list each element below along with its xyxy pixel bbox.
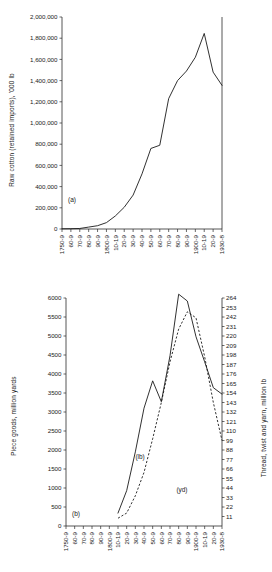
x-tick-label: 60-9 <box>158 531 165 544</box>
chart-a-y-axis-title: Raw cotton (retained imports), '000 lb <box>8 73 16 187</box>
x-tick-label: 1900-9 <box>192 234 199 254</box>
x-tick-label: 60-9 <box>71 531 78 544</box>
y-right-tick-label: 242 <box>226 313 237 320</box>
y-tick-label: 1,800,000 <box>30 34 58 41</box>
y-right-tick-label: 176 <box>226 370 237 377</box>
y-right-tick-label: 253 <box>226 304 237 311</box>
y-right-tick-label: 55 <box>226 475 233 482</box>
chart-a-y-axis-title-group: Raw cotton (retained imports), '000 lb <box>8 73 16 187</box>
x-tick-label: 20-9 <box>120 234 127 247</box>
chart-b-svg: Piece goods, million yards Thread, twist… <box>0 288 272 572</box>
chart-b-curve-label-lb: (lb) <box>135 453 144 461</box>
y-tick-label: 0 <box>54 225 58 232</box>
y-tick-label: 1,200,000 <box>30 98 58 105</box>
x-tick-label: 60-9 <box>156 234 163 247</box>
y-tick-label: 4000 <box>48 370 62 377</box>
x-tick-label: 10-19 <box>201 531 208 547</box>
y-right-tick-label: 198 <box>226 351 237 358</box>
x-tick-label: 20-9 <box>210 531 217 544</box>
y-tick-label: 600,000 <box>35 162 58 169</box>
y-right-tick-label: 77 <box>226 456 233 463</box>
series-line-solid <box>62 33 222 228</box>
series-line-dashed <box>118 312 222 518</box>
y-tick-label: 2000 <box>48 446 62 453</box>
y-tick-label: 5500 <box>48 313 62 320</box>
y-right-tick-label: 88 <box>226 446 233 453</box>
chart-a-svg: Raw cotton (retained imports), '000 lb 0… <box>0 0 272 288</box>
chart-b-y-tick-labels: 0500100015002000250030003500400045005000… <box>48 294 62 529</box>
y-right-tick-label: 154 <box>226 389 237 396</box>
y-tick-label: 4500 <box>48 351 62 358</box>
y-right-tick-label: 231 <box>226 323 237 330</box>
x-tick-label: 80-9 <box>175 531 182 544</box>
x-tick-label: 40-9 <box>138 234 145 247</box>
chart-a-x-tick-labels: 1750-960-970-980-990-91800-910-1920-930-… <box>58 234 225 254</box>
x-tick-label: 30-9 <box>129 234 136 247</box>
y-tick-label: 6000 <box>48 294 62 301</box>
x-tick-label: 50-9 <box>147 234 154 247</box>
x-tick-label: 70-9 <box>80 531 87 544</box>
y-right-tick-label: 264 <box>226 294 237 301</box>
y-right-tick-label: 187 <box>226 361 237 368</box>
y-right-tick-label: 66 <box>226 465 233 472</box>
chart-b-axis-lines <box>64 298 225 529</box>
x-tick-label: 90-9 <box>183 234 190 247</box>
chart-b-x-tick-labels: 1750-960-970-980-990-91800-910-1920-930-… <box>62 531 225 551</box>
y-right-tick-label: 209 <box>226 342 237 349</box>
chart-a-axis-lines <box>60 17 223 232</box>
x-tick-label: 10-19 <box>200 234 207 250</box>
x-tick-label: 60-9 <box>67 234 74 247</box>
chart-a-y-tick-labels: 0200,000400,000600,000800,0001,000,0001,… <box>30 13 58 232</box>
x-tick-label: 1800-9 <box>103 234 110 254</box>
y-tick-label: 3500 <box>48 389 62 396</box>
x-tick-label: 1930-8 <box>218 234 225 254</box>
x-tick-label: 1900-9 <box>192 531 199 551</box>
y-tick-label: 2,000,000 <box>30 13 58 20</box>
y-tick-label: 2500 <box>48 427 62 434</box>
y-tick-label: 400,000 <box>35 183 58 190</box>
x-tick-label: 70-9 <box>166 531 173 544</box>
y-tick-label: 1,000,000 <box>30 119 58 126</box>
chart-b-series-group <box>118 294 222 518</box>
chart-panel-b: Piece goods, million yards Thread, twist… <box>0 288 272 572</box>
x-tick-label: 80-9 <box>85 234 92 247</box>
x-tick-label: 10-19 <box>114 531 121 547</box>
chart-b-y-axis-title: Piece goods, million yards <box>10 376 18 455</box>
chart-a-panel-tag: (a) <box>68 196 76 204</box>
y-tick-label: 500 <box>51 503 62 510</box>
chart-b-y-axis-right-title-group: Thread, twist and yarn, million lb <box>260 379 268 478</box>
y-tick-label: 1,600,000 <box>30 56 58 63</box>
x-tick-label: 30-9 <box>132 531 139 544</box>
y-right-tick-label: 143 <box>226 399 237 406</box>
y-tick-label: 5000 <box>48 332 62 339</box>
chart-b-y-axis-title-group: Piece goods, million yards <box>10 376 18 455</box>
x-tick-label: 90-9 <box>94 234 101 247</box>
y-right-tick-label: 121 <box>226 418 237 425</box>
x-tick-label: 1750-9 <box>58 234 65 254</box>
chart-b-y-axis-right-title: Thread, twist and yarn, million lb <box>260 379 268 478</box>
x-tick-label: 50-9 <box>149 531 156 544</box>
x-tick-label: 80-9 <box>88 531 95 544</box>
x-tick-label: 1930-8 <box>218 531 225 551</box>
x-tick-label: 40-9 <box>140 531 147 544</box>
y-tick-label: 1000 <box>48 484 62 491</box>
y-tick-label: 800,000 <box>35 140 58 147</box>
x-tick-label: 90-9 <box>97 531 104 544</box>
x-tick-label: 1750-9 <box>62 531 69 551</box>
x-tick-label: 20-9 <box>209 234 216 247</box>
y-right-tick-label: 33 <box>226 494 233 501</box>
y-right-tick-label: 22 <box>226 503 233 510</box>
y-tick-label: 1,400,000 <box>30 77 58 84</box>
x-tick-label: 20-9 <box>123 531 130 544</box>
y-right-tick-label: 44 <box>226 484 233 491</box>
y-right-tick-label: 165 <box>226 380 237 387</box>
series-line-solid <box>118 294 222 513</box>
y-tick-label: 3000 <box>48 408 62 415</box>
x-tick-label: 10-19 <box>112 234 119 250</box>
y-tick-label: 1500 <box>48 465 62 472</box>
chart-b-curve-label-yd: (yd) <box>176 486 187 494</box>
y-right-tick-label: 132 <box>226 408 237 415</box>
x-tick-label: 70-9 <box>165 234 172 247</box>
chart-a-series-group <box>62 33 222 228</box>
x-tick-label: 70-9 <box>76 234 83 247</box>
